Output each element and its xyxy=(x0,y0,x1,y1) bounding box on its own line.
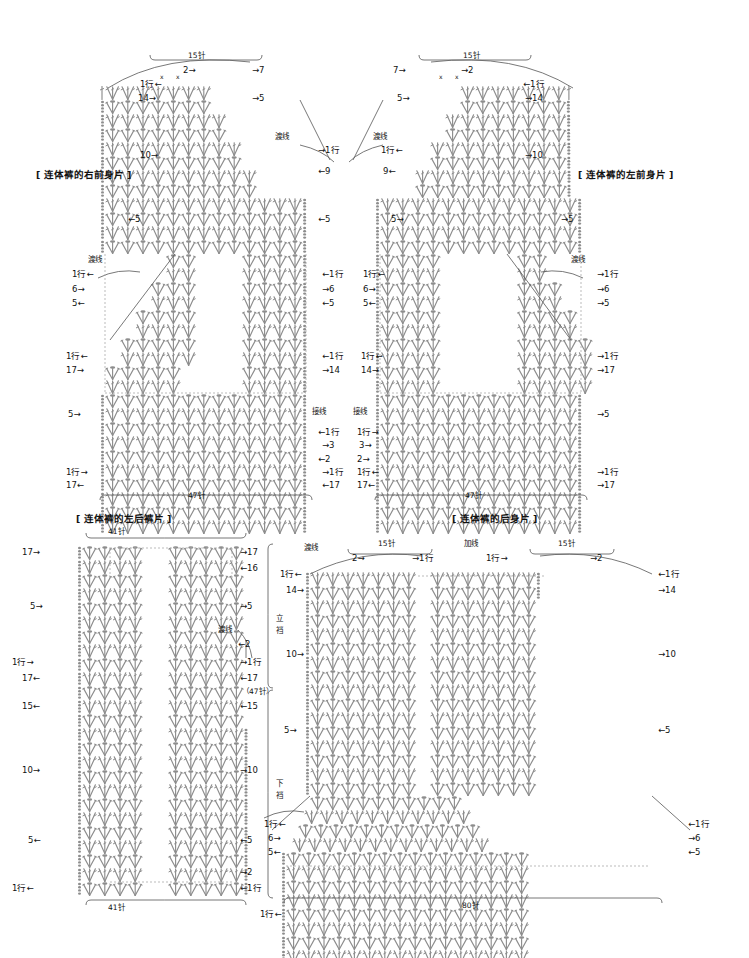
bracket-label-41-top: 41针 xyxy=(108,528,125,536)
bracket-label-15-stitches: 15针 xyxy=(188,52,205,60)
row-marker-14b-p4: →14 xyxy=(658,586,676,595)
stitch-x3: x xyxy=(439,74,443,80)
row-marker-1row-p4: →1行 xyxy=(412,554,434,563)
row-marker-6b-p4: →6 xyxy=(688,834,701,843)
row-marker-10: 10→ xyxy=(140,151,158,160)
row-marker-5e2: 5← xyxy=(363,299,376,308)
note-carry-yarn-2: 渡线 xyxy=(373,133,387,141)
panel-back-bodice: 15针15针渡线加线2→→1行1行→→21行←←1行14→→1410→→105→… xyxy=(290,530,749,950)
row-marker-1row-b2: 1行← xyxy=(381,146,403,155)
row-marker-5d2: →5 xyxy=(597,299,610,308)
row-marker-1row-2: ←1行 xyxy=(523,80,545,89)
row-marker-10-2: →10 xyxy=(525,151,543,160)
panel-left-back-trouser: 41针41针立裆下裆17→→17←165→→5渡线←2→1行1行→17←←17（… xyxy=(0,530,300,950)
row-marker-2: 2→ xyxy=(183,66,196,75)
row-marker-6b: →6 xyxy=(322,285,335,294)
note-carry-yarn-p3: 渡线 xyxy=(218,626,232,634)
row-marker-14-p4: 14→ xyxy=(286,586,304,595)
row-marker-5d-p4: ←5 xyxy=(688,848,701,857)
row-marker-15b-p3: ←15 xyxy=(240,702,258,711)
row-marker-7-2: 7→ xyxy=(393,66,406,75)
row-marker-1row-g-p4: 1行← xyxy=(260,910,282,919)
bracket-label-15-p4: 15针 xyxy=(378,540,395,548)
row-marker-14b2: 14→ xyxy=(361,366,379,375)
row-marker-10b-p3: →10 xyxy=(240,766,258,775)
row-marker-1row-f2: 1行← xyxy=(361,352,383,361)
stitch-x2: x xyxy=(176,74,180,80)
note-carry-yarn-b2: 渡线 xyxy=(571,256,585,264)
row-marker-2b-p4: →2 xyxy=(590,554,603,563)
row-marker-1row-c-p4: 1行← xyxy=(280,570,302,579)
bracket-label-rise-1: 立 xyxy=(276,615,283,623)
row-marker-5: →5 xyxy=(252,94,265,103)
panel-title-left-back-trouser: [ 连体裤的左后裤片 ] xyxy=(76,514,171,524)
row-marker-2b: ←2 xyxy=(318,455,331,464)
row-marker-10-p4: 10→ xyxy=(286,650,304,659)
row-marker-17c2: 17← xyxy=(357,481,375,490)
row-marker-5d: 5← xyxy=(72,299,85,308)
row-marker-2b2: 2→ xyxy=(357,455,370,464)
panel-title-left-front: [ 连体裤的左前身片 ] xyxy=(578,170,673,180)
row-marker-17: 17→ xyxy=(66,366,84,375)
note-join-yarn-2: 接线 xyxy=(353,408,367,416)
row-marker-1row-e2: →1行 xyxy=(597,352,619,361)
row-marker-6-p4: 6→ xyxy=(268,834,281,843)
row-marker-1row-b: →1行 xyxy=(318,146,340,155)
row-marker-5-p4: 5→ xyxy=(284,726,297,735)
panel-title-back-bodice: [ 连体裤的后身片 ] xyxy=(452,514,537,524)
label-47-paren: （47针） xyxy=(242,688,273,696)
bracket-label-41-bottom: 41针 xyxy=(108,904,125,912)
panel-left-front-bodice: 15针7→→2←1行→145→渡线1行←9←→10→55→渡线→1行1行←→66… xyxy=(375,0,749,510)
row-marker-1row-i2: 1行← xyxy=(357,468,379,477)
bracket-label-15b-p4: 15针 xyxy=(558,540,575,548)
row-marker-1row-h2: →1行 xyxy=(597,468,619,477)
row-marker-3-2: 3→ xyxy=(359,441,372,450)
row-marker-5b2: →5 xyxy=(561,215,574,224)
row-marker-17b2: →17 xyxy=(597,481,615,490)
bracket-label-15-stitches-2: 15针 xyxy=(463,52,480,60)
row-marker-5b-p3: →5 xyxy=(240,602,253,611)
bracket-label-lower-2: 裆 xyxy=(276,792,283,800)
row-marker-10-p3: 10→ xyxy=(22,766,40,775)
note-carry-yarn: 渡线 xyxy=(275,133,289,141)
bracket-label-rise-2: 裆 xyxy=(276,627,283,635)
row-marker-2b-p3: →2 xyxy=(240,868,253,877)
row-marker-17d-p3: ←17 xyxy=(240,674,258,683)
row-marker-1row-b-p4: 1行→ xyxy=(486,554,508,563)
row-marker-10b-p4: →10 xyxy=(658,650,676,659)
row-marker-17-2: →17 xyxy=(597,366,615,375)
note-carry-yarn-b: 渡线 xyxy=(88,256,102,264)
row-marker-17c: ←17 xyxy=(322,481,340,490)
note-add-yarn-p4: 加线 xyxy=(464,540,478,548)
stitch-x4: x xyxy=(455,74,459,80)
bracket-label-47-stitches: 47针 xyxy=(188,492,205,500)
row-marker-1row: 1行← xyxy=(140,80,162,89)
row-marker-2-p4: 2→ xyxy=(352,554,365,563)
panel-title-right-front: [ 连体裤的右前身片 ] xyxy=(36,170,131,180)
row-marker-5b: ←5 xyxy=(128,215,141,224)
note-join-yarn: 接线 xyxy=(312,408,326,416)
row-marker-1row-c2: →1行 xyxy=(597,270,619,279)
row-marker-5b-p4: ←5 xyxy=(658,726,671,735)
note-carry-yarn-p4: 渡线 xyxy=(304,544,318,552)
bracket-label-80-p4: 80针 xyxy=(462,902,479,910)
row-marker-2-2: →2 xyxy=(461,66,474,75)
stitch-x: x xyxy=(160,74,164,80)
row-marker-14b: →14 xyxy=(322,366,340,375)
row-marker-5e: ←5 xyxy=(322,299,335,308)
row-marker-5c2: 5→ xyxy=(391,215,404,224)
row-marker-5f2: →5 xyxy=(597,410,610,419)
row-marker-17-p3: 17→ xyxy=(22,548,40,557)
row-marker-17b: 17← xyxy=(66,481,84,490)
row-marker-16-p3: ←16 xyxy=(240,564,258,573)
row-marker-17c-p3: 17← xyxy=(22,674,40,683)
panel-right-front-bodice: 15针2→→71行←14→→5渡线→1行←910→←5←5渡线1行←←1行6→→… xyxy=(0,0,370,510)
row-marker-1row-d-p3: ←1行 xyxy=(240,884,262,893)
row-marker-2-p3: ←2 xyxy=(238,640,251,649)
row-marker-5c-p3: 5← xyxy=(28,836,41,845)
row-marker-1row-b-p3: 1行→ xyxy=(12,658,34,667)
row-marker-1row-c: 1行← xyxy=(72,270,94,279)
row-marker-9-2: 9← xyxy=(383,167,396,176)
row-marker-6: 6→ xyxy=(72,285,85,294)
bracket-label-lower-1: 下 xyxy=(276,780,283,788)
